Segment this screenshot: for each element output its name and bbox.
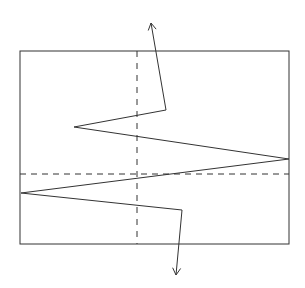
zigzag-ray-path <box>21 23 289 275</box>
arrowheads <box>148 23 180 275</box>
frame-rectangle <box>20 51 289 244</box>
zigzag-ray-diagram <box>0 0 305 288</box>
diagram-container <box>0 0 305 288</box>
